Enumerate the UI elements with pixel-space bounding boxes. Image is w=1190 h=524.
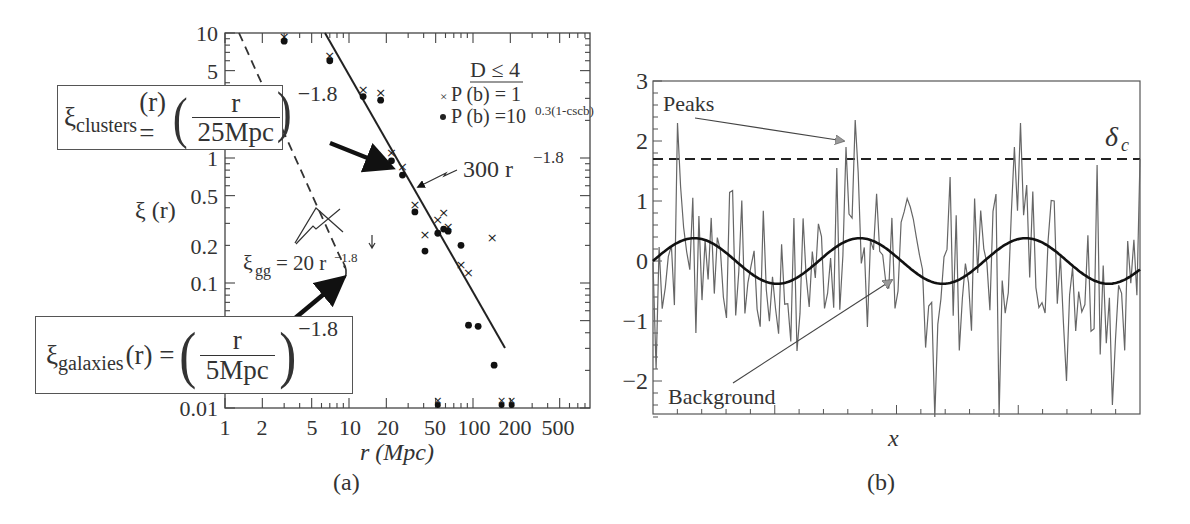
small-down-arrow-icon bbox=[369, 235, 375, 248]
xtick-50: 50 bbox=[424, 415, 446, 440]
eq-clusters-numerator: r bbox=[225, 89, 246, 117]
panel-b-x-axis-label: x bbox=[887, 425, 899, 451]
xtick-100: 100 bbox=[458, 415, 491, 440]
ytick-10: 10 bbox=[196, 21, 218, 46]
figure-canvas: 10 5 1 0.5 0.2 0.1 0.01 1 2 5 10 20 50 1… bbox=[0, 0, 1190, 524]
eq-galaxies-open-paren: ( bbox=[179, 323, 196, 387]
eq-galaxies-exponent: −1.8 bbox=[298, 316, 338, 342]
b-ytick-3: 3 bbox=[636, 68, 648, 94]
eq-galaxies-denominator: 5Mpc bbox=[200, 355, 275, 384]
eq-galaxies-xi: ξ bbox=[46, 340, 58, 371]
background-sinusoid bbox=[653, 238, 1140, 284]
legend-dot-marker-icon bbox=[440, 114, 446, 120]
peaks-label: Peaks bbox=[663, 91, 714, 116]
xtick-20: 20 bbox=[377, 415, 399, 440]
b-ytick-1: 1 bbox=[636, 188, 648, 214]
panel-a-caption: (a) bbox=[333, 469, 360, 495]
delta-c-subscript: c bbox=[1121, 135, 1129, 155]
fit-annotation-exponent: −1.8 bbox=[533, 148, 564, 167]
background-label: Background bbox=[668, 384, 776, 409]
eq-clusters-lhs: (r) = bbox=[139, 87, 167, 149]
eq-clusters-closing: ) −1.8 bbox=[275, 80, 338, 144]
legend-dot-label: P (b) =10 bbox=[451, 105, 526, 128]
svg-text:×: × bbox=[487, 230, 498, 245]
xi-gg-annotation: ξ gg = 20 r −1.8 bbox=[243, 250, 358, 280]
panel-b-caption: (b) bbox=[867, 469, 895, 495]
eq-galaxies-subscript: galaxies bbox=[58, 352, 124, 375]
xi-gg-rest: = 20 r bbox=[276, 251, 326, 275]
xi-gg-exponent: −1.8 bbox=[334, 250, 358, 265]
panel-a-x-axis-label: r (Mpc) bbox=[360, 439, 434, 465]
eq-clusters-fraction: r 25Mpc bbox=[192, 89, 281, 147]
xi-gg-subscript: gg bbox=[255, 262, 271, 280]
eq-galaxies-lhs: (r) = bbox=[126, 340, 175, 371]
panel-a-x-tick-labels: 1 2 5 10 20 50 100 200 500 bbox=[220, 415, 575, 440]
eq-clusters-xi: ξ bbox=[64, 102, 76, 133]
legend-cross-label: P (b) = 1 bbox=[451, 83, 521, 106]
svg-text:×: × bbox=[420, 227, 431, 242]
eq-galaxies-close-paren: ) bbox=[279, 323, 296, 387]
fit-annotation: 300 r bbox=[463, 156, 513, 182]
ytick-0.1: 0.1 bbox=[191, 271, 219, 296]
xtick-10: 10 bbox=[339, 415, 361, 440]
xtick-200: 200 bbox=[499, 415, 532, 440]
ytick-0.01: 0.01 bbox=[180, 396, 219, 421]
clusters-arrow bbox=[330, 143, 390, 167]
svg-text:×: × bbox=[463, 265, 474, 280]
ytick-5: 5 bbox=[207, 59, 218, 84]
panel-b: 3 2 1 0 −1 −2 x (b) δ c Peaks Background bbox=[622, 68, 1140, 495]
eq-galaxies-fraction: r 5Mpc bbox=[200, 326, 275, 384]
xtick-1: 1 bbox=[220, 415, 231, 440]
legend-cross-marker-icon: × bbox=[440, 89, 447, 104]
peaks-arrow bbox=[695, 118, 844, 141]
eq-clusters-subscript: clusters bbox=[76, 114, 137, 137]
equation-clusters-box: ξ clusters (r) = ( r 25Mpc bbox=[57, 85, 283, 150]
b-ytick-0: 0 bbox=[636, 248, 648, 274]
xi-gg-symbol: ξ bbox=[243, 250, 253, 275]
xtick-500: 500 bbox=[542, 415, 575, 440]
legend-title: D ≤ 4 bbox=[470, 57, 520, 82]
ytick-0.2: 0.2 bbox=[191, 234, 219, 259]
legend-dot-exponent: 0.3(1-cscb) bbox=[535, 103, 594, 118]
b-ytick-m1: −1 bbox=[622, 308, 648, 334]
eq-galaxies-numerator: r bbox=[227, 326, 248, 354]
fit-line-pointer bbox=[418, 170, 457, 187]
equation-galaxies-box: ξ galaxies (r) = ( r 5Mpc ) −1.8 bbox=[35, 316, 353, 394]
panel-a-y-axis-label: ξ (r) bbox=[135, 197, 176, 223]
xtick-2: 2 bbox=[257, 415, 268, 440]
eq-clusters-close-paren: ) bbox=[277, 80, 292, 144]
noisy-field-line bbox=[653, 120, 1140, 417]
panel-a-legend: D ≤ 4 × P (b) = 1 P (b) =10 0.3(1-cscb) bbox=[440, 57, 594, 128]
panel-b-y-ticks bbox=[653, 81, 662, 417]
eq-clusters-open-paren: ( bbox=[173, 90, 188, 146]
eq-clusters-denominator: 25Mpc bbox=[192, 117, 281, 146]
svg-text:×: × bbox=[397, 159, 408, 174]
eq-clusters-exponent: −1.8 bbox=[298, 81, 338, 106]
xi-gg-dashed-line bbox=[239, 33, 345, 268]
delta-c-symbol: δ bbox=[1105, 121, 1119, 152]
b-ytick-2: 2 bbox=[636, 128, 648, 154]
xi-gg-pointer bbox=[296, 209, 340, 244]
panel-b-y-tick-labels: 3 2 1 0 −1 −2 bbox=[622, 68, 648, 394]
ytick-0.5: 0.5 bbox=[191, 184, 219, 209]
b-ytick-m2: −2 bbox=[622, 368, 648, 394]
xtick-5: 5 bbox=[307, 415, 318, 440]
